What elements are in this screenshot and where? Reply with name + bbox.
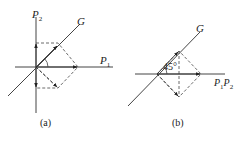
caption-b: (b) bbox=[172, 117, 184, 129]
g-line-label: G bbox=[77, 15, 85, 27]
panel-a: P2 P1 G (a) bbox=[8, 8, 113, 129]
angle-arc bbox=[45, 59, 49, 68]
caption-a: (a) bbox=[40, 117, 51, 129]
force-arrows bbox=[36, 44, 77, 87]
g-line bbox=[8, 24, 80, 96]
figure-canvas: P2 P1 G (a) 45° G P1P2 (b) bbox=[0, 0, 241, 142]
g-line-label-b: G bbox=[196, 22, 204, 34]
p1p2-axis-label: P1P2 bbox=[213, 77, 234, 91]
dashed-construction bbox=[36, 43, 78, 88]
panel-b: 45° G P1P2 (b) bbox=[128, 22, 234, 129]
angle-label: 45° bbox=[163, 61, 177, 72]
force-arrows-b bbox=[157, 52, 200, 96]
p2-axis-label: P2 bbox=[31, 8, 43, 23]
